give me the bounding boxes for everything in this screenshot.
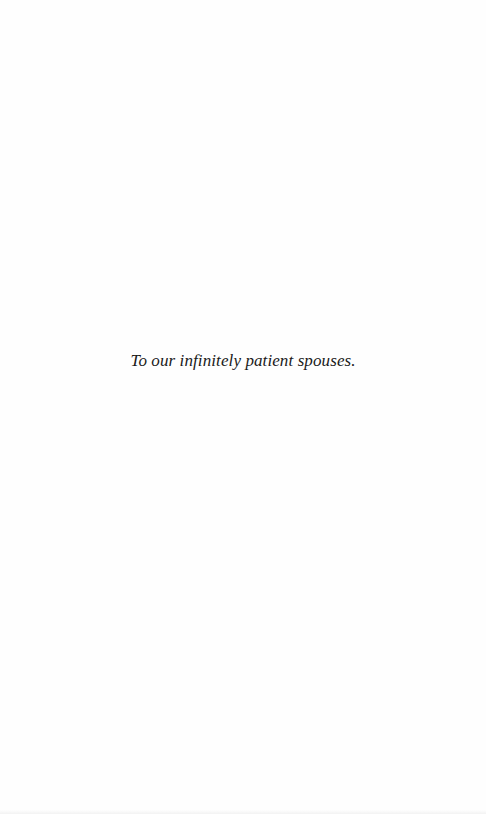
dedication-text: To our infinitely patient spouses.: [0, 350, 486, 372]
book-page: To our infinitely patient spouses.: [0, 0, 486, 814]
page-bottom-edge: [0, 810, 486, 814]
